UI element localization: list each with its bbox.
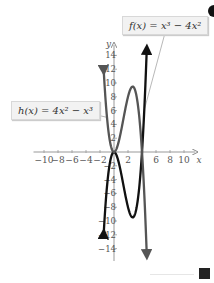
svg-text:8: 8 — [167, 155, 173, 165]
svg-text:12: 12 — [105, 64, 116, 74]
svg-text:6: 6 — [111, 106, 116, 116]
svg-text:10: 10 — [178, 155, 190, 165]
svg-text:−4: −4 — [79, 155, 93, 165]
svg-text:−12: −12 — [98, 230, 116, 240]
graph-plot: −10−8−6−4−226810x1412108642−2−4−6−8−10−1… — [0, 0, 214, 283]
f-function-label: f(x) = x³ − 4x² — [122, 16, 208, 35]
svg-text:x: x — [197, 155, 202, 165]
h-function-label: h(x) = 4x² − x³ — [11, 101, 100, 120]
next-page-icon[interactable] — [199, 268, 210, 279]
svg-text:−4: −4 — [103, 175, 116, 185]
svg-text:10: 10 — [105, 78, 116, 88]
svg-text:6: 6 — [153, 155, 159, 165]
svg-text:y: y — [105, 39, 112, 49]
svg-text:−8: −8 — [51, 155, 65, 165]
svg-text:−14: −14 — [98, 244, 116, 254]
svg-text:8: 8 — [111, 92, 116, 102]
nav-track — [150, 274, 194, 275]
svg-text:14: 14 — [105, 50, 116, 60]
svg-text:2: 2 — [125, 155, 131, 165]
svg-text:4: 4 — [111, 119, 116, 129]
svg-text:−6: −6 — [65, 155, 79, 165]
corner-marker — [208, 5, 214, 17]
svg-text:2: 2 — [111, 133, 116, 143]
svg-text:−10: −10 — [98, 216, 116, 226]
